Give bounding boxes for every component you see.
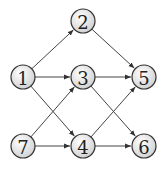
node-label: 7	[17, 137, 28, 158]
node-label: 5	[138, 68, 149, 89]
node-3: 3	[71, 65, 95, 89]
node-5: 5	[132, 65, 156, 89]
node-4: 4	[71, 134, 95, 158]
node-7: 7	[11, 134, 35, 158]
edge-2-to-5	[92, 29, 135, 68]
edge-1-to-2	[32, 30, 74, 69]
node-label: 6	[138, 137, 149, 158]
node-1: 1	[11, 65, 35, 89]
directed-graph: 1234567	[0, 0, 164, 169]
node-label: 3	[77, 68, 88, 89]
node-2: 2	[71, 9, 95, 33]
node-label: 1	[17, 68, 28, 89]
node-label: 2	[77, 12, 88, 33]
node-label: 4	[77, 137, 88, 158]
node-6: 6	[132, 134, 156, 158]
